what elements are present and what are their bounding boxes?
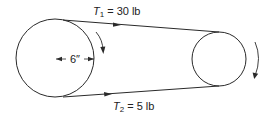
radius-dimension: 6″ xyxy=(56,53,94,65)
tension-bottom-label: T2=5 lb xyxy=(113,100,154,114)
large-pulley xyxy=(16,19,94,97)
belt-top-arrow-icon xyxy=(113,22,121,26)
rotation-arrowhead-large-icon xyxy=(100,47,105,54)
radius-label: 6″ xyxy=(70,53,80,65)
tension-top-label: T1=30 lb xyxy=(93,5,140,19)
small-pulley xyxy=(192,32,246,86)
belt-bottom-arrow-icon xyxy=(104,92,112,96)
rotation-arrowhead-small-icon xyxy=(253,73,259,79)
belt-bottom xyxy=(63,86,219,97)
belt-top xyxy=(63,20,219,32)
rotation-arrow-small-icon xyxy=(255,42,259,76)
belt-drive-diagram: 6″ T1=30 lb T2=5 lb xyxy=(0,0,278,117)
